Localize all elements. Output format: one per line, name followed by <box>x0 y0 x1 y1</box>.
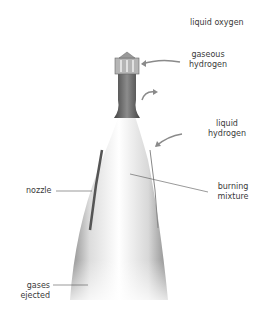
label-gaseous-hydrogen: gaseous hydrogen <box>178 50 238 70</box>
label-line: hydrogen <box>178 60 238 70</box>
label-liquid-oxygen: liquid oxygen <box>190 18 244 28</box>
liquid-hydrogen-arrow <box>156 134 182 146</box>
label-line: burning <box>210 182 256 192</box>
label-line: gases <box>6 281 50 291</box>
label-liquid-hydrogen: liquid hydrogen <box>202 119 252 139</box>
label-line: gaseous <box>178 50 238 60</box>
label-gases-ejected: gases ejected <box>6 281 50 301</box>
label-line: hydrogen <box>202 129 252 139</box>
rocket-engine-illustration <box>0 0 277 311</box>
label-line: liquid <box>202 119 252 129</box>
liquid-oxygen-arrow <box>142 60 180 64</box>
label-line: ejected <box>6 291 50 301</box>
combustion-chamber <box>114 72 140 118</box>
label-burning-mixture: burning mixture <box>210 182 256 202</box>
label-line: mixture <box>210 192 256 202</box>
label-nozzle: nozzle <box>26 186 52 196</box>
